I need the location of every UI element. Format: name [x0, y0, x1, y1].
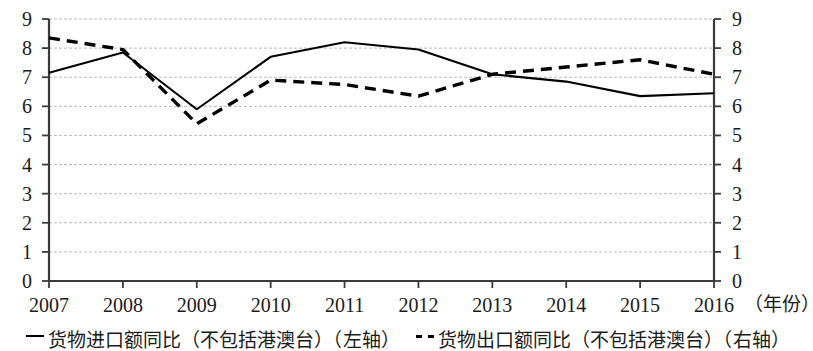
- x-axis-tick-label: 2010: [233, 295, 309, 315]
- x-axis-tick-label: 2015: [602, 295, 678, 315]
- left-axis-tick-label: 9: [16, 9, 38, 29]
- x-axis-tick-label: 2013: [454, 295, 530, 315]
- x-axis-tick-label: 2008: [85, 295, 161, 315]
- right-axis-tick-label: 0: [726, 271, 748, 291]
- right-axis-tick-label: 5: [726, 125, 748, 145]
- legend-label: 货物进口额同比（不包括港澳台）（左轴）: [48, 331, 400, 350]
- right-axis-tick-label: 9: [726, 9, 748, 29]
- x-axis-tick-label: 2011: [307, 295, 383, 315]
- legend-label: 货物出口额同比（不包括港澳台）（右轴）: [438, 331, 790, 350]
- right-axis-tick-label: 6: [726, 96, 748, 116]
- x-axis-tick-label: 2014: [528, 295, 604, 315]
- left-axis-tick-label: 2: [16, 213, 38, 233]
- right-axis-tick-label: 3: [726, 184, 748, 204]
- right-axis-tick-label: 4: [726, 155, 748, 175]
- series-lines: [49, 38, 714, 124]
- left-axis-tick-label: 5: [16, 125, 38, 145]
- legend-swatch-dashed: [416, 335, 434, 338]
- left-axis-tick-label: 8: [16, 38, 38, 58]
- right-axis-tick-label: 1: [726, 242, 748, 262]
- gridlines: [49, 19, 714, 252]
- axis-lines: [49, 19, 714, 281]
- x-axis-title: （年份）: [744, 295, 813, 314]
- right-axis-tick-label: 2: [726, 213, 748, 233]
- x-axis-tick-label: 2012: [380, 295, 456, 315]
- left-axis-tick-label: 3: [16, 184, 38, 204]
- left-axis-tick-label: 0: [16, 271, 38, 291]
- left-axis-tick-label: 1: [16, 242, 38, 262]
- right-axis-tick-label: 8: [726, 38, 748, 58]
- right-axis-tick-label: 7: [726, 67, 748, 87]
- x-axis-tick-label: 2007: [11, 295, 87, 315]
- legend-swatch-solid: [26, 335, 44, 337]
- left-axis-tick-label: 7: [16, 67, 38, 87]
- series-dashed: [49, 38, 714, 124]
- left-axis-tick-label: 6: [16, 96, 38, 116]
- left-axis-tick-label: 4: [16, 155, 38, 175]
- x-axis-tick-label: 2016: [676, 295, 752, 315]
- tick-marks: [42, 19, 721, 288]
- x-axis-tick-label: 2009: [159, 295, 235, 315]
